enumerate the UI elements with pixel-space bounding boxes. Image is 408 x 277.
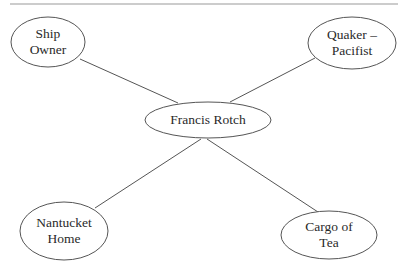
- node-label-ship-owner: Ship Owner: [30, 26, 67, 58]
- node-label-line: Cargo of: [305, 219, 352, 235]
- node-label-line: Home: [36, 231, 91, 247]
- edge-nantucket-home: [95, 139, 201, 208]
- node-label-line: Owner: [30, 42, 67, 58]
- node-label-line: Ship: [30, 26, 67, 42]
- edge-ship-owner: [80, 59, 178, 103]
- node-label-line: Pacifist: [327, 43, 377, 59]
- node-label-line: Nantucket: [36, 215, 91, 231]
- node-label-line: Tea: [305, 235, 352, 251]
- concept-map-diagram: Francis Rotch Ship Owner Quaker – Pacifi…: [0, 0, 408, 277]
- node-label-line: Quaker –: [327, 27, 377, 43]
- node-label-line: Francis Rotch: [170, 112, 245, 128]
- node-label-cargo-of-tea: Cargo of Tea: [305, 219, 352, 251]
- node-label-quaker-pacifist: Quaker – Pacifist: [327, 27, 377, 59]
- edge-cargo-of-tea: [207, 139, 318, 212]
- node-label-nantucket-home: Nantucket Home: [36, 215, 91, 247]
- edge-quaker-pacifist: [230, 58, 315, 102]
- node-label-francis-rotch: Francis Rotch: [170, 112, 245, 128]
